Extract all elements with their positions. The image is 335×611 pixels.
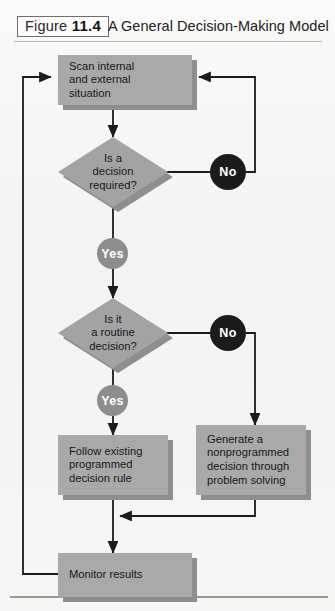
scan-line-2: and external — [69, 73, 131, 85]
decision2-no-label: No — [219, 326, 236, 340]
decision2-line-3: decision? — [89, 340, 136, 352]
decision2-line-1: Is it — [104, 313, 121, 325]
monitor-line-1: Monitor results — [69, 568, 142, 580]
node-decision-required[interactable]: Is a decision required? — [55, 137, 177, 212]
generate-box-text: Generate a nonprogrammed decision throug… — [196, 433, 295, 487]
scan-box-text: Scan internal and external situation — [58, 60, 140, 101]
follow-line-1: Follow existing — [69, 445, 142, 457]
monitor-box-face[interactable]: Monitor results — [58, 553, 192, 597]
node-routine-decision[interactable]: Is it a routine decision? — [55, 298, 177, 373]
scan-line-3: situation — [69, 87, 111, 99]
scan-box-face[interactable]: Scan internal and external situation — [58, 55, 192, 105]
scan-line-1: Scan internal — [69, 60, 134, 72]
decision1-yes-badge[interactable]: Yes — [97, 238, 128, 269]
monitor-box-text: Monitor results — [58, 568, 148, 582]
generate-line-4: problem solving — [207, 474, 285, 486]
edge-decision2-no-to-generate — [246, 333, 255, 425]
follow-line-2: programmed — [69, 458, 132, 470]
decision2-line-2: a routine — [91, 326, 135, 338]
follow-box-face[interactable]: Follow existing programmed decision rule — [58, 435, 168, 495]
edge-generate-to-merge — [120, 500, 255, 516]
decision2-yes-label: Yes — [101, 394, 123, 408]
figure-page: Figure 11.4 A General Decision-Making Mo… — [0, 0, 335, 611]
follow-line-3: decision rule — [69, 472, 132, 484]
generate-box-face[interactable]: Generate a nonprogrammed decision throug… — [196, 425, 306, 495]
decision2-yes-badge[interactable]: Yes — [97, 385, 128, 416]
decision1-text: Is a decision required? — [52, 137, 174, 207]
decision1-line-2: decision — [92, 165, 133, 177]
decision2-no-badge[interactable]: No — [210, 315, 246, 351]
follow-box-text: Follow existing programmed decision rule — [58, 445, 148, 486]
decision1-line-1: Is a — [104, 152, 122, 164]
decision1-line-3: required? — [89, 179, 136, 191]
decision2-text: Is it a routine decision? — [52, 298, 174, 368]
generate-line-1: Generate a — [207, 433, 263, 445]
generate-line-3: decision through — [207, 460, 289, 472]
generate-line-2: nonprogrammed — [207, 446, 289, 458]
decision1-no-badge[interactable]: No — [210, 154, 246, 190]
decision1-yes-label: Yes — [101, 247, 123, 261]
decision1-no-label: No — [219, 165, 236, 179]
